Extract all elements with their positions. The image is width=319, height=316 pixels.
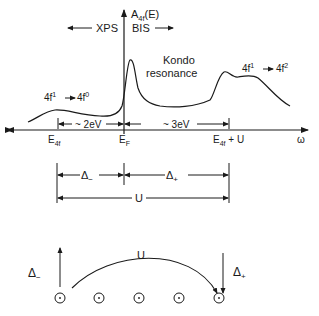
svg-text:~ 3eV: ~ 3eV	[163, 119, 190, 130]
lattice-delta-minus: Δ−	[28, 266, 41, 282]
bar-u-label: U	[135, 192, 143, 204]
tick-ef: EF	[119, 134, 130, 147]
x-axis-label: ω	[297, 134, 305, 145]
y-axis-label: A4f(E)	[131, 8, 159, 23]
lattice-site	[134, 293, 144, 303]
gap-right-dimension: ~ 3eV	[125, 118, 229, 130]
diagram-canvas: A4f(E) XPS BIS Kondo resonance 4f1 4f0 4…	[0, 0, 319, 316]
xps-label: XPS	[96, 22, 118, 34]
svg-text:4f1: 4f1	[44, 91, 56, 103]
axis-left-arrow-icon	[6, 127, 14, 133]
right-transition-label: 4f1 4f2	[242, 62, 288, 74]
energy-scale-bar: Δ− Δ+ U	[57, 163, 229, 204]
tick-e4f-plus-u: E4f + U	[213, 134, 244, 147]
lattice-delta-plus: Δ+	[233, 265, 246, 281]
tick-e4f: E4f	[48, 134, 61, 147]
svg-text:4f0: 4f0	[77, 91, 89, 103]
bar-delta-plus: Δ+	[166, 169, 178, 184]
lattice-site	[94, 293, 104, 303]
gap-left-dimension: ~ 2eV	[58, 118, 123, 130]
lattice-u-label: U	[137, 249, 145, 261]
svg-text:4f1: 4f1	[242, 62, 254, 74]
kondo-label-line1: Kondo	[163, 54, 195, 66]
bis-label: BIS	[132, 22, 150, 34]
lattice-diagram: Δ− U Δ+	[28, 248, 246, 303]
kondo-label-line2: resonance	[146, 67, 197, 79]
lattice-site	[174, 293, 184, 303]
hop-arc-arrow	[72, 258, 217, 293]
lattice-site	[214, 293, 224, 303]
svg-text:4f2: 4f2	[276, 62, 288, 74]
bar-delta-minus: Δ−	[81, 169, 93, 184]
left-transition-label: 4f1 4f0	[44, 91, 89, 103]
spectrum-plot: A4f(E) XPS BIS Kondo resonance 4f1 4f0 4…	[6, 8, 308, 147]
svg-text:~ 2eV: ~ 2eV	[75, 119, 102, 130]
lattice-site	[55, 293, 65, 303]
